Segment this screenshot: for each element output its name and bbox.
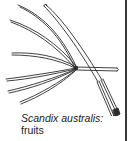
- right-border-rule: [125, 0, 127, 141]
- figure-caption: Scandix australis: fruits: [21, 112, 103, 136]
- caption-species: Scandix australis:: [21, 112, 103, 124]
- horizontal-bristle: [76, 67, 119, 71]
- hub: [74, 66, 78, 70]
- ray: [6, 5, 76, 104]
- seed-body: [97, 79, 120, 116]
- botanical-figure: Scandix australis: fruits: [0, 0, 134, 141]
- scandix-fruits-illustration: [0, 0, 126, 116]
- caption-part: fruits: [21, 124, 103, 136]
